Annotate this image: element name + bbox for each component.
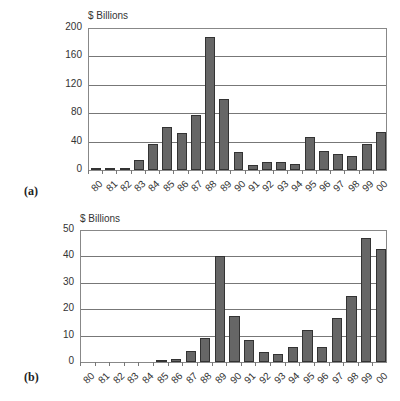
- x-tick-label: 83: [125, 370, 141, 386]
- x-tick-label: 89: [213, 370, 229, 386]
- x-tick-label: 92: [257, 370, 273, 386]
- x-tick-label: 93: [272, 370, 288, 386]
- bar-88: [200, 338, 210, 362]
- y-tick-label: 0: [44, 355, 74, 366]
- x-tick-mark: [197, 362, 198, 366]
- x-tick-mark: [124, 362, 125, 366]
- x-tick-mark: [80, 362, 81, 366]
- x-tick-label: 99: [359, 370, 375, 386]
- x-tick-mark: [241, 362, 242, 366]
- y-tick-label: 20: [44, 302, 74, 313]
- y-tick-label: 10: [44, 329, 74, 340]
- bar-00: [376, 249, 386, 362]
- bar-98: [346, 296, 356, 362]
- bar-92: [259, 352, 269, 362]
- x-tick-label: 97: [330, 370, 346, 386]
- x-tick-label: 94: [286, 370, 302, 386]
- gridline: [81, 309, 386, 310]
- x-tick-mark: [270, 362, 271, 366]
- bar-89: [215, 256, 225, 362]
- x-tick-mark: [95, 362, 96, 366]
- x-tick-label: 85: [155, 370, 171, 386]
- x-tick-label: 90: [228, 370, 244, 386]
- x-tick-label: 96: [315, 370, 331, 386]
- bar-90: [229, 316, 239, 362]
- x-tick-mark: [168, 362, 169, 366]
- x-tick-label: 88: [198, 370, 214, 386]
- plot-area-b: [80, 230, 387, 363]
- x-tick-mark: [285, 362, 286, 366]
- gridline: [81, 283, 386, 284]
- x-tick-mark: [329, 362, 330, 366]
- x-tick-label: 81: [96, 370, 112, 386]
- x-tick-mark: [138, 362, 139, 366]
- y-tick-label: 50: [44, 223, 74, 234]
- bar-91: [244, 340, 254, 362]
- x-tick-mark: [372, 362, 373, 366]
- x-tick-mark: [343, 362, 344, 366]
- x-tick-mark: [358, 362, 359, 366]
- bar-94: [288, 347, 298, 362]
- y-tick-label: 30: [44, 276, 74, 287]
- x-tick-mark: [314, 362, 315, 366]
- x-tick-label: 86: [169, 370, 185, 386]
- chart-b: $ Billions (b) 01020304050 8081828384858…: [0, 0, 400, 401]
- bar-97: [332, 318, 342, 362]
- bar-99: [361, 238, 371, 362]
- x-tick-mark: [255, 362, 256, 366]
- x-tick-label: 00: [374, 370, 390, 386]
- bar-95: [302, 330, 312, 362]
- panel-label-b: (b): [24, 370, 39, 385]
- x-tick-label: 98: [345, 370, 361, 386]
- x-tick-mark: [299, 362, 300, 366]
- x-tick-mark: [109, 362, 110, 366]
- bar-93: [273, 354, 283, 362]
- bar-86: [171, 359, 181, 362]
- bar-85: [156, 360, 166, 362]
- x-tick-mark: [153, 362, 154, 366]
- bar-87: [186, 351, 196, 362]
- x-tick-label: 91: [242, 370, 258, 386]
- x-tick-mark: [212, 362, 213, 366]
- y-axis-title-b: $ Billions: [80, 213, 120, 224]
- x-tick-label: 80: [81, 370, 97, 386]
- x-tick-mark: [182, 362, 183, 366]
- x-tick-label: 84: [140, 370, 156, 386]
- gridline: [81, 256, 386, 257]
- bar-96: [317, 347, 327, 362]
- y-tick-label: 40: [44, 249, 74, 260]
- x-tick-mark: [226, 362, 227, 366]
